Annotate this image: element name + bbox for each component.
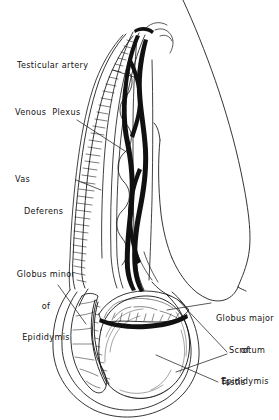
label-vas-deferens: Vas Deferens — [15, 153, 63, 227]
label-globus-minor-line2: of — [6, 301, 86, 312]
anatomy-figure: Testicular artery Venous Plexus Vas Defe… — [0, 0, 279, 420]
label-venous-plexus: Venous Plexus — [15, 107, 80, 118]
label-globus-minor-of-epididymis: Globus minor of Epididymis — [6, 248, 86, 353]
label-testis: Testis — [221, 377, 246, 388]
label-globus-minor-line3: Epididymis — [6, 332, 86, 343]
label-vas-deferens-line1: Vas — [15, 174, 63, 185]
label-globus-major-line1: Globus major — [211, 313, 279, 324]
label-scrotum: Scrotum — [229, 345, 265, 356]
label-vas-deferens-line2: Deferens — [24, 206, 63, 217]
label-globus-minor-line1: Globus minor — [6, 269, 86, 280]
label-testicular-artery: Testicular artery — [17, 60, 88, 71]
